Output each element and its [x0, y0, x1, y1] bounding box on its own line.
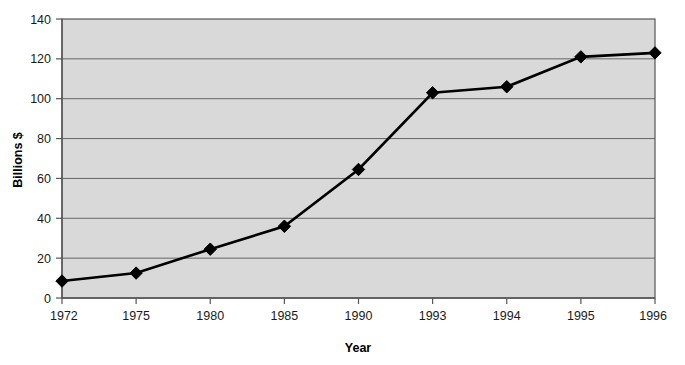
y-axis-tick-label: 0: [44, 292, 51, 306]
y-axis-tick-label: 120: [30, 52, 51, 66]
x-axis-title: Year: [345, 341, 372, 355]
y-axis-tick-label: 140: [30, 13, 51, 27]
y-axis-tick-label: 100: [30, 92, 51, 106]
x-axis-tick-label: 1993: [419, 309, 447, 323]
y-axis-tick-label: 20: [37, 252, 51, 266]
x-axis-tick-label: 1990: [345, 309, 373, 323]
line-chart: 020406080100120140 197219751980198519901…: [0, 0, 685, 365]
y-axis-tick-label: 80: [37, 132, 51, 146]
plot-area-background: [62, 19, 655, 298]
x-axis-tick-label: 1985: [270, 309, 298, 323]
chart-canvas: 020406080100120140 197219751980198519901…: [0, 0, 685, 365]
x-axis-tick-label: 1995: [567, 309, 595, 323]
x-axis-tick-label: 1975: [122, 309, 150, 323]
x-axis-tick-label: 1980: [196, 309, 224, 323]
y-axis-tick-label: 60: [37, 172, 51, 186]
x-axis-tick-labels-group: 197219751980198519901993199419951996: [50, 309, 667, 323]
x-axis-tick-label: 1994: [493, 309, 521, 323]
y-axis-tick-label: 40: [37, 212, 51, 226]
x-axis-tick-label: 1996: [639, 309, 667, 323]
x-axis-tick-label: 1972: [50, 309, 78, 323]
y-axis-title: Billions $: [11, 132, 25, 188]
